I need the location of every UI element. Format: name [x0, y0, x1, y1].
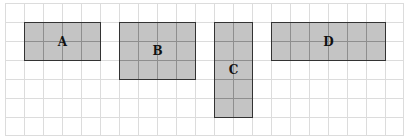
rectangle-a-label: A: [58, 35, 67, 49]
rectangle-b: B: [119, 22, 196, 80]
rectangle-c-label: C: [229, 63, 239, 77]
rectangle-a: A: [24, 22, 101, 61]
rectangle-d-label: D: [323, 35, 333, 49]
rectangle-d: D: [271, 22, 386, 61]
rectangle-b-label: B: [152, 44, 162, 58]
rectangle-c: C: [214, 22, 253, 118]
